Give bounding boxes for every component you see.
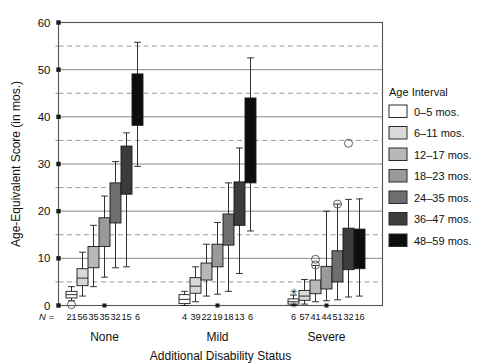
n-value: 35	[99, 312, 109, 322]
boxplot-chart: 0102030405060Age-Equivalent Score (in mo…	[0, 0, 498, 364]
legend-swatch	[389, 213, 407, 226]
box-none-3	[99, 196, 110, 277]
box-rect	[88, 247, 99, 268]
y-tick-label: 60	[38, 17, 51, 29]
legend-label: 36–47 mos.	[414, 213, 471, 225]
box-rect	[121, 146, 132, 194]
x-tick-marker	[325, 304, 329, 308]
box-rect	[110, 183, 121, 223]
legend-title: Age Interval	[389, 86, 448, 98]
legend-label: 12–17 mos.	[414, 149, 471, 161]
n-value: 6	[291, 312, 296, 322]
legend-label: 6–11 mos.	[414, 127, 465, 139]
box-severe-1	[299, 280, 310, 305]
n-value: 39	[190, 312, 200, 322]
y-axis-title: Age-Equivalent Score (in mos.)	[9, 81, 23, 247]
x-axis-title: Additional Disability Status	[150, 349, 291, 363]
box-rect	[201, 263, 212, 280]
outlier-asterisk: ✳	[290, 287, 298, 297]
y-tick-marker	[56, 67, 60, 71]
n-value: 57	[299, 312, 309, 322]
box-mild-3	[212, 222, 223, 294]
y-tick-marker	[56, 20, 60, 24]
legend-item-3[interactable]: 18–23 mos.	[389, 170, 471, 183]
n-value: 44	[321, 312, 331, 322]
x-group-label: Mild	[206, 330, 228, 344]
legend-item-0[interactable]: 0–5 mos.	[389, 105, 459, 118]
box-rect	[354, 229, 365, 269]
n-value: 18	[223, 312, 233, 322]
box-mild-1	[190, 267, 201, 302]
box-mild-4	[223, 183, 234, 291]
box-severe-4	[332, 200, 343, 300]
y-tick-label: 0	[44, 300, 50, 312]
box-rect	[99, 218, 110, 247]
n-value: 51	[332, 312, 342, 322]
n-row-label: N =	[39, 311, 55, 322]
legend-item-6[interactable]: 48–59 mos.	[389, 234, 471, 247]
n-value: 32	[343, 312, 353, 322]
legend-swatch	[389, 105, 407, 118]
legend: Age Interval0–5 mos.6–11 mos.12–17 mos.1…	[389, 86, 471, 247]
legend-label: 0–5 mos.	[414, 106, 459, 118]
x-group-label: Severe	[307, 330, 345, 344]
n-value: 15	[121, 312, 131, 322]
n-value: 41	[310, 312, 320, 322]
y-tick-marker	[56, 256, 60, 260]
n-value: 35	[88, 312, 98, 322]
n-value: 4	[182, 312, 187, 322]
box-rect	[234, 182, 245, 225]
legend-swatch	[389, 234, 407, 247]
box-rect	[332, 251, 343, 282]
y-tick-marker	[56, 303, 60, 307]
y-tick-marker	[56, 209, 60, 213]
box-rect	[310, 280, 321, 294]
n-value: 32	[110, 312, 120, 322]
box-mild-5	[234, 148, 245, 273]
outlier-asterisk: ✳	[290, 300, 298, 310]
y-tick-label: 40	[38, 111, 51, 123]
y-axis: 0102030405060Age-Equivalent Score (in mo…	[9, 17, 61, 312]
n-value: 19	[212, 312, 222, 322]
legend-item-4[interactable]: 24–35 mos.	[389, 191, 471, 204]
box-severe-6	[354, 199, 365, 296]
box-mild-0	[179, 291, 190, 305]
n-value: 21	[66, 312, 76, 322]
legend-label: 24–35 mos.	[414, 192, 471, 204]
n-value: 13	[234, 312, 244, 322]
box-none-6	[132, 42, 143, 166]
box-none-4	[110, 162, 121, 268]
legend-item-1[interactable]: 6–11 mos.	[389, 127, 465, 140]
box-rect	[212, 244, 223, 267]
boxplot-series-group: ✳✳	[66, 42, 365, 309]
box-mild-6	[245, 58, 256, 231]
n-value: 56	[77, 312, 87, 322]
box-rect	[321, 266, 332, 289]
legend-swatch	[389, 148, 407, 161]
box-rect	[343, 228, 354, 270]
legend-item-5[interactable]: 36–47 mos.	[389, 213, 471, 226]
box-rect	[77, 269, 88, 286]
box-rect	[223, 214, 234, 245]
legend-swatch	[389, 170, 407, 183]
box-none-5	[121, 133, 132, 267]
x-tick-marker	[103, 304, 107, 308]
legend-swatch	[389, 191, 407, 204]
x-tick-marker	[216, 304, 220, 308]
y-tick-marker	[56, 115, 60, 119]
legend-label: 18–23 mos.	[414, 170, 471, 182]
box-severe-0: ✳✳	[288, 287, 299, 310]
y-tick-label: 20	[38, 205, 51, 217]
x-group-label: None	[90, 330, 119, 344]
n-value: 6	[248, 312, 253, 322]
y-tick-label: 30	[38, 158, 51, 170]
legend-item-2[interactable]: 12–17 mos.	[389, 148, 471, 161]
y-tick-label: 50	[38, 64, 51, 76]
box-rect	[190, 278, 201, 294]
outlier-circle	[68, 301, 76, 309]
n-value: 16	[354, 312, 364, 322]
box-rect	[245, 98, 256, 183]
n-value: 22	[201, 312, 211, 322]
box-rect	[299, 290, 310, 300]
figure-container: 0102030405060Age-Equivalent Score (in mo…	[0, 0, 498, 364]
